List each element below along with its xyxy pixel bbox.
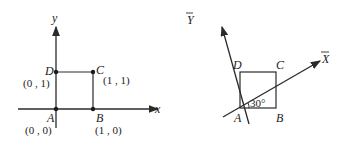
- point-c-coord: (1 , 1): [103, 74, 130, 87]
- point-d-dot: [54, 70, 58, 74]
- point-b-label: B: [96, 111, 104, 125]
- left-figure: y x D (0 , 1) C (1 , 1) A (0 , 0) B (1 ,…: [18, 11, 161, 137]
- point-c-label: C: [276, 58, 285, 72]
- point-b-dot: [91, 107, 95, 111]
- x-axis-label: x: [154, 102, 161, 116]
- x-bar-label: X: [321, 52, 330, 66]
- point-d-label: D: [232, 58, 242, 72]
- point-d-coord: (0 , 1): [23, 77, 50, 90]
- y-bar-label: Y: [187, 13, 195, 27]
- angle-arc: [248, 103, 249, 108]
- point-b-coord: (1 , 0): [95, 124, 122, 137]
- point-b-label: B: [276, 111, 284, 125]
- point-a-coord: (0 , 0): [25, 124, 52, 137]
- angle-label: 30°: [250, 97, 265, 109]
- point-c-dot: [91, 70, 95, 74]
- point-a-dot: [54, 107, 58, 111]
- point-d-label: D: [44, 64, 54, 78]
- diagram-canvas: y x D (0 , 1) C (1 , 1) A (0 , 0) B (1 ,…: [0, 0, 348, 145]
- point-a-label: A: [233, 111, 242, 125]
- unit-square: [56, 72, 93, 109]
- right-figure: Y X D C A B 30°: [186, 13, 330, 125]
- point-a-label: A: [46, 111, 55, 125]
- y-axis-label: y: [51, 11, 58, 25]
